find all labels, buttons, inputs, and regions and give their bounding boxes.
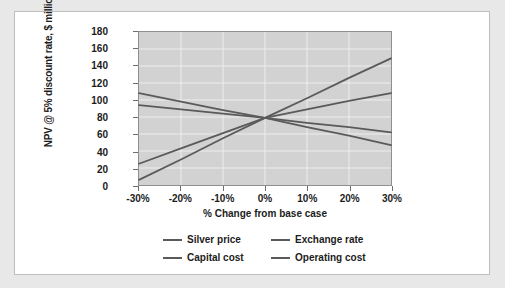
x-axis-tick-mark	[223, 186, 224, 191]
y-axis-tick-label: 180	[68, 26, 108, 37]
series-line	[139, 105, 391, 132]
x-axis-tick-label: 30%	[364, 193, 420, 204]
x-axis-tick-mark	[307, 186, 308, 191]
y-axis-tick-label: 120	[68, 77, 108, 88]
legend-item[interactable]: Capital cost	[163, 252, 271, 263]
y-axis-tick-label: 140	[68, 60, 108, 71]
y-axis-tick-label: 60	[68, 129, 108, 140]
sensitivity-chart: NPV @ 5% discount rate, $ million 020406…	[15, 12, 489, 274]
plot-area	[138, 31, 392, 186]
x-axis-title: % Change from base case	[138, 208, 392, 219]
x-axis-tick-mark	[265, 186, 266, 191]
legend-line-swatch	[271, 239, 290, 241]
legend-label: Capital cost	[187, 252, 244, 263]
legend-item[interactable]: Exchange rate	[271, 234, 393, 245]
x-axis-tick-mark	[392, 186, 393, 191]
y-axis-tick-label: 0	[68, 181, 108, 192]
y-axis-tick-label: 80	[68, 112, 108, 123]
legend-label: Silver price	[187, 234, 241, 245]
y-axis-tick-label: 160	[68, 43, 108, 54]
legend-item[interactable]: Operating cost	[271, 252, 393, 263]
chart-legend: Silver priceExchange rateCapital costOpe…	[163, 234, 393, 263]
y-axis-tick-label: 20	[68, 163, 108, 174]
x-axis-tick-mark	[180, 186, 181, 191]
legend-label: Operating cost	[295, 252, 366, 263]
y-axis-tick-label: 100	[68, 94, 108, 105]
y-axis-tick-label: 40	[68, 146, 108, 157]
legend-line-swatch	[271, 257, 290, 259]
legend-line-swatch	[163, 257, 182, 259]
screenshot-canvas: NPV @ 5% discount rate, $ million 020406…	[0, 0, 505, 288]
x-axis-tick-mark	[138, 186, 139, 191]
x-axis-tick-mark	[350, 186, 351, 191]
y-axis-title: NPV @ 5% discount rate, $ million	[43, 0, 54, 155]
figure-frame: NPV @ 5% discount rate, $ million 020406…	[14, 11, 490, 275]
series-line	[139, 58, 391, 180]
legend-label: Exchange rate	[295, 234, 363, 245]
legend-item[interactable]: Silver price	[163, 234, 271, 245]
series-lines	[139, 32, 391, 185]
legend-line-swatch	[163, 239, 182, 241]
